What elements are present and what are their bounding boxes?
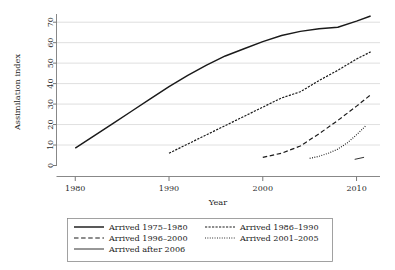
assimilation-index-chart: 010203040506070 1980199020002010 Assimil…	[0, 0, 395, 270]
y-tick-label: 40	[46, 79, 55, 89]
y-axis-label: Assimilation index	[12, 54, 22, 132]
y-tick-label: 0	[46, 163, 55, 168]
y-tick-label: 70	[46, 17, 55, 27]
x-tick-label: 2000	[253, 184, 273, 193]
y-tick-label: 60	[46, 38, 55, 48]
legend-label-3: Arrived 2001–2005	[239, 233, 319, 243]
legend-label-2: Arrived 1996–2000	[108, 233, 188, 243]
x-tick-label: 1980	[65, 184, 85, 193]
legend-label-0: Arrived 1975–1980	[108, 222, 188, 232]
chart-svg: 010203040506070 1980199020002010 Assimil…	[0, 0, 395, 270]
y-tick-label: 10	[46, 140, 55, 150]
y-tick-label: 50	[46, 58, 55, 68]
legend-label-4: Arrived after 2006	[108, 244, 185, 254]
chart-background	[0, 0, 395, 270]
x-axis-label: Year	[208, 197, 227, 207]
x-tick-label: 2010	[346, 184, 366, 193]
x-tick-label: 1990	[159, 184, 179, 193]
legend-label-1: Arrived 1986–1990	[239, 222, 319, 232]
y-tick-label: 30	[46, 99, 55, 109]
y-tick-label: 20	[46, 119, 55, 129]
